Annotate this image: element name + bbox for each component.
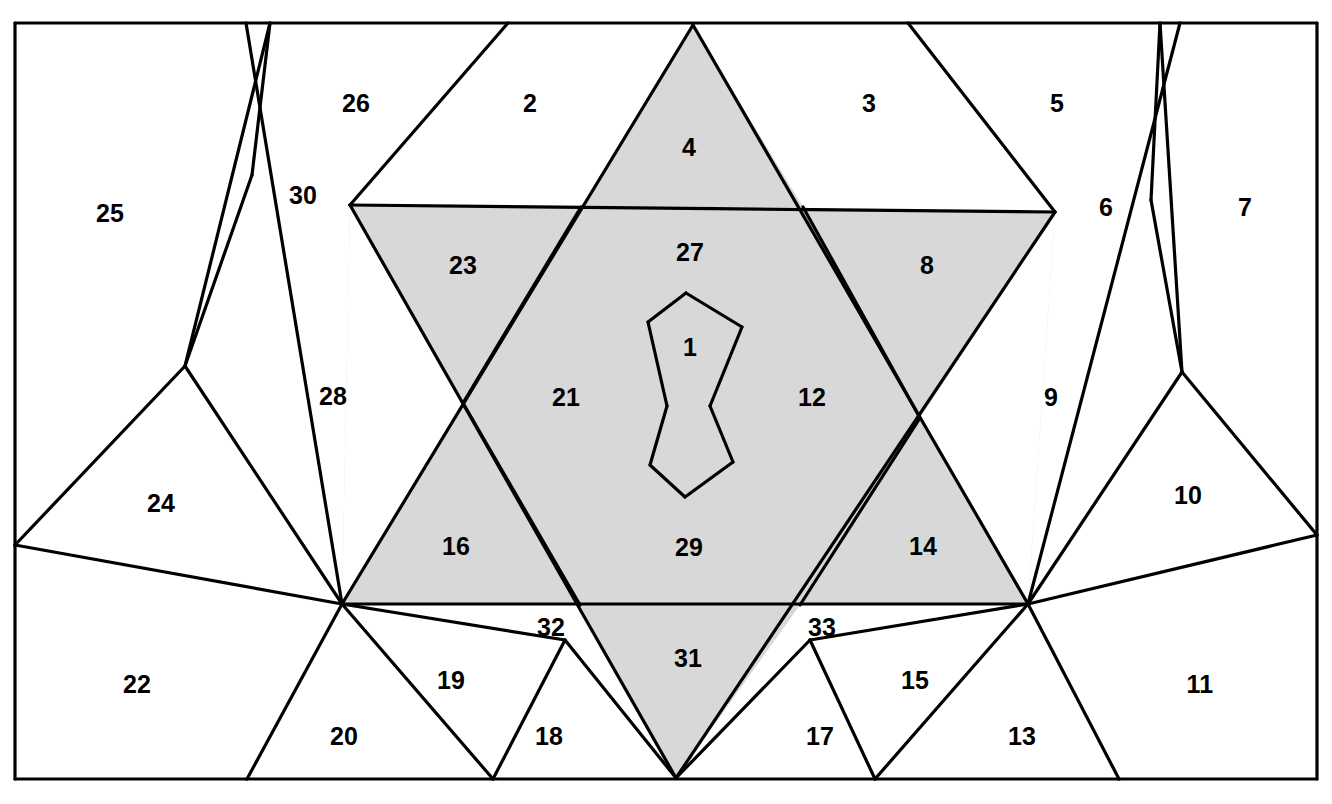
region-label-23: 23 bbox=[449, 253, 477, 278]
region-label-14: 14 bbox=[909, 534, 937, 559]
hexagram-tiling-figure: 1234567891011121314151617181920212223242… bbox=[0, 0, 1332, 804]
region-label-2: 2 bbox=[523, 91, 537, 116]
region-label-30: 30 bbox=[289, 183, 317, 208]
region-label-20: 20 bbox=[330, 724, 358, 749]
region-label-27: 27 bbox=[676, 240, 704, 265]
region-label-21: 21 bbox=[552, 385, 580, 410]
region-label-5: 5 bbox=[1050, 91, 1064, 116]
bottom-edge-33-17 bbox=[810, 640, 875, 779]
tiling-canvas bbox=[0, 0, 1332, 804]
left-vertex-to-edge bbox=[15, 366, 185, 545]
topleft-spoke-26-2 bbox=[350, 23, 508, 205]
topleft-spoke-25-30 bbox=[185, 23, 270, 366]
bottom-spoke-33-15 bbox=[810, 604, 1028, 640]
region-label-10: 10 bbox=[1174, 483, 1202, 508]
bottom-spoke-32-19 bbox=[342, 604, 565, 640]
region-label-13: 13 bbox=[1008, 724, 1036, 749]
region-label-16: 16 bbox=[442, 534, 470, 559]
region-label-25: 25 bbox=[96, 201, 124, 226]
left-lower-chord bbox=[15, 545, 342, 604]
region-label-29: 29 bbox=[675, 535, 703, 560]
notch-25-30-lower bbox=[185, 175, 252, 366]
region-label-6: 6 bbox=[1099, 195, 1113, 220]
region-label-12: 12 bbox=[798, 385, 826, 410]
region-label-31: 31 bbox=[674, 646, 702, 671]
region-31-triangle bbox=[580, 605, 800, 778]
region-label-18: 18 bbox=[535, 724, 563, 749]
region-label-8: 8 bbox=[920, 253, 934, 278]
region-label-28: 28 bbox=[319, 384, 347, 409]
bottom-spoke-15-13 bbox=[875, 604, 1028, 779]
right-vertex-to-edge bbox=[1182, 372, 1317, 535]
region-label-9: 9 bbox=[1044, 385, 1058, 410]
region-label-22: 22 bbox=[123, 672, 151, 697]
region-label-32: 32 bbox=[537, 615, 565, 640]
bottom-edge-32-18 bbox=[493, 640, 565, 779]
region-label-7: 7 bbox=[1238, 195, 1252, 220]
bottom-spoke-13-11 bbox=[1028, 604, 1119, 779]
region-label-24: 24 bbox=[147, 491, 175, 516]
region-label-11: 11 bbox=[1187, 672, 1214, 697]
notch-7-6-upper bbox=[1151, 23, 1160, 200]
region-label-19: 19 bbox=[437, 668, 465, 693]
region-label-17: 17 bbox=[806, 724, 834, 749]
region-label-1: 1 bbox=[683, 335, 697, 360]
right-lower-chord bbox=[1028, 535, 1317, 604]
region-label-26: 26 bbox=[342, 91, 370, 116]
topright-spoke-3-5 bbox=[908, 23, 1055, 212]
bottom-spoke-20-22 bbox=[247, 604, 342, 779]
bottom-spoke-19-20 bbox=[342, 604, 493, 779]
region-label-4: 4 bbox=[682, 135, 696, 160]
region-label-15: 15 bbox=[901, 668, 929, 693]
region-label-3: 3 bbox=[862, 91, 876, 116]
region-label-33: 33 bbox=[808, 615, 836, 640]
region-4-triangle bbox=[581, 25, 803, 207]
